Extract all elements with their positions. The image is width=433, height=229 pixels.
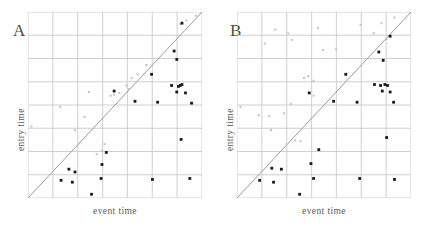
panel-b: B event time entry time [217, 0, 433, 229]
x-axis-label-b: event time [237, 206, 411, 216]
y-axis-label-b: entry time [225, 108, 235, 151]
data-points-a [28, 12, 202, 198]
x-axis-label-a: event time [28, 206, 202, 216]
panel-a: A event time entry time [0, 0, 216, 229]
data-points-b [237, 12, 411, 198]
panel-a-letter: A [13, 22, 25, 39]
figure-scatter-pair: A event time entry time B event time ent… [0, 0, 433, 229]
y-axis-label-a: entry time [16, 108, 26, 151]
plot-area-a [28, 12, 202, 198]
plot-area-b [237, 12, 411, 198]
